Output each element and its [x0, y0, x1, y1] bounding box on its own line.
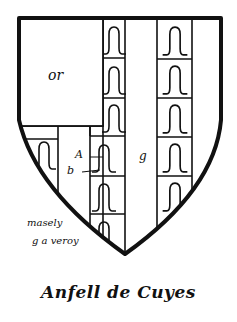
annotation-line-1: masely: [27, 218, 62, 228]
canton-tincture-label: or: [48, 68, 63, 82]
annotation-line-2: g a veroy: [32, 236, 79, 246]
label-a: A: [75, 149, 83, 160]
label-b: b: [67, 165, 74, 176]
pale-tincture-label: g: [139, 150, 147, 162]
vair-bells-right: [163, 27, 188, 211]
shield-caption: Anfell de Cuyes: [0, 284, 237, 301]
shield-drawing: [0, 0, 237, 322]
